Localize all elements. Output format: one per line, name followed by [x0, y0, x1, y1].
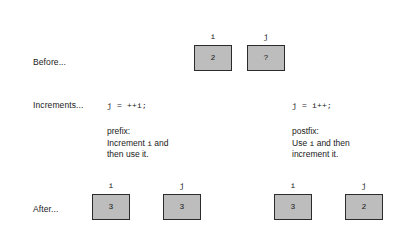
after-right-box-j-value: 2 — [346, 203, 382, 211]
note-prefix: prefix: Increment i and then use it. — [107, 126, 169, 161]
note-postfix-line2: increment it. — [292, 149, 350, 161]
note-postfix-line1-pre: Use — [292, 138, 309, 148]
after-right-box-i: 3 — [274, 194, 312, 220]
note-prefix-line1: Increment i and — [107, 138, 169, 150]
after-left-box-j: 3 — [163, 194, 201, 220]
after-left-box-i-name: i — [92, 182, 130, 190]
after-left-box-j-name: j — [163, 182, 201, 190]
note-postfix-line1: Use i and then — [292, 138, 350, 150]
note-prefix-title: prefix: — [107, 126, 169, 138]
after-right-box-i-value: 3 — [275, 203, 311, 211]
note-postfix-title: postfix: — [292, 126, 350, 138]
before-box-i-name: i — [194, 33, 232, 41]
row-label-after: After... — [33, 204, 58, 214]
after-left-box-j-value: 3 — [164, 203, 200, 211]
note-prefix-line2: then use it. — [107, 149, 169, 161]
note-prefix-line1-post: and — [152, 138, 169, 148]
after-right-box-j: 2 — [345, 194, 383, 220]
note-postfix-line1-post: and then — [314, 138, 349, 148]
before-box-j-value: ? — [248, 54, 284, 62]
note-postfix: postfix: Use i and then increment it. — [292, 126, 350, 161]
row-label-increments: Increments... — [33, 100, 83, 110]
diagram-canvas: Before... i 2 j ? Increments... j = ++i;… — [0, 0, 407, 235]
code-postfix: j = i++; — [292, 101, 332, 110]
before-box-j-name: j — [247, 33, 285, 41]
after-right-box-j-name: j — [345, 182, 383, 190]
before-box-i-value: 2 — [195, 54, 231, 62]
after-left-box-i: 3 — [92, 194, 130, 220]
before-box-i: 2 — [194, 45, 232, 71]
after-right-box-i-name: i — [274, 182, 312, 190]
after-left-box-i-value: 3 — [93, 203, 129, 211]
before-box-j: ? — [247, 45, 285, 71]
row-label-before: Before... — [33, 57, 66, 67]
note-prefix-line1-pre: Increment — [107, 138, 147, 148]
code-prefix: j = ++i; — [107, 101, 147, 110]
